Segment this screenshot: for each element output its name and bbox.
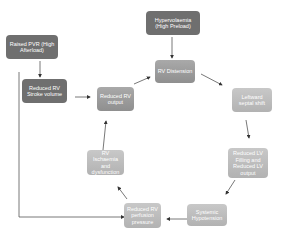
node-leftward-septal-shift: Leftward septal shift [232, 88, 272, 112]
node-systemic-hypotension: Systemic Hypotension [187, 204, 227, 226]
node-reduced-rv-stroke-volume: Reduced RV Stroke volume [22, 79, 67, 103]
node-reduced-rv-output: Reduced RV output [97, 87, 134, 111]
node-raised-pvr: Raised PVR (High Afterload) [6, 35, 58, 59]
node-hypervolaemia: Hypervolaemia (High Preload) [146, 11, 200, 35]
node-reduced-lv-filling: Reduced LV Filling and Reduced LV output [228, 148, 268, 178]
node-reduced-rv-perfusion: Reduced RV perfusion pressure [124, 203, 161, 228]
node-rv-distension: RV Distension [155, 60, 195, 83]
node-rv-ischaemia: RV Ischaemia and dysfunction [87, 150, 124, 175]
